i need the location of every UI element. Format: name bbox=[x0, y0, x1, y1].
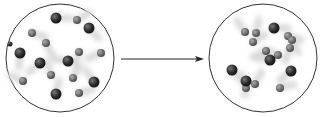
small-particle bbox=[276, 84, 284, 92]
large-particle bbox=[89, 77, 100, 88]
large-particle bbox=[269, 23, 280, 34]
small-particle bbox=[274, 51, 282, 59]
large-particle bbox=[15, 48, 26, 59]
large-particle bbox=[35, 58, 46, 69]
small-particle bbox=[286, 44, 294, 52]
large-particle bbox=[241, 76, 252, 87]
small-particle bbox=[97, 49, 105, 57]
reaction-diagram bbox=[0, 0, 325, 117]
large-particle bbox=[286, 66, 297, 77]
large-particle bbox=[265, 55, 276, 66]
before-container bbox=[6, 4, 114, 112]
small-particle bbox=[75, 89, 83, 97]
small-particle bbox=[69, 74, 77, 82]
small-particle bbox=[251, 80, 259, 88]
small-particle bbox=[28, 29, 36, 37]
small-particle bbox=[249, 38, 257, 46]
large-particle bbox=[84, 23, 95, 34]
large-particle bbox=[51, 13, 62, 24]
large-particle bbox=[51, 89, 62, 100]
small-particle bbox=[241, 28, 249, 36]
small-particle bbox=[262, 47, 270, 55]
after-container bbox=[209, 4, 317, 112]
reaction-arrow bbox=[121, 56, 204, 62]
small-particle bbox=[19, 77, 27, 85]
tiny-particle bbox=[8, 42, 13, 47]
small-particle bbox=[47, 71, 55, 79]
small-particle bbox=[288, 36, 296, 44]
small-particle bbox=[75, 48, 83, 56]
large-particle bbox=[63, 56, 74, 67]
small-particle bbox=[42, 39, 50, 47]
small-particle bbox=[73, 16, 81, 24]
large-particle bbox=[227, 65, 238, 76]
small-particle bbox=[252, 29, 260, 37]
